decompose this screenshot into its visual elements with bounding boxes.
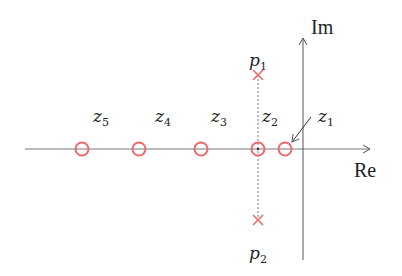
zero-label-z3: z3: [210, 106, 227, 129]
imag-axis-label: Im: [311, 16, 334, 38]
pole-label-p1: p1: [249, 50, 267, 73]
zero-label-z1: z1: [317, 106, 334, 129]
z1-pointer-arrow: [292, 117, 311, 142]
pole-zero-diagram: Im Re z5 z4 z3 z2 z1 p1 p2: [0, 0, 402, 276]
zero-label-z4: z4: [154, 106, 171, 129]
origin-dot: [257, 148, 259, 150]
pole-label-p2: p2: [249, 243, 267, 266]
zero-label-z2: z2: [261, 106, 278, 129]
real-axis-label: Re: [354, 159, 376, 181]
zero-label-z5: z5: [92, 106, 109, 129]
